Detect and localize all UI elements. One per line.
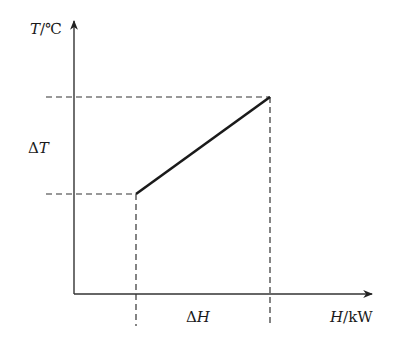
delta-h-label: ΔH bbox=[186, 308, 211, 326]
delta-t-label: ΔT bbox=[28, 139, 50, 157]
temperature-line bbox=[136, 97, 270, 194]
y-axis-label: T/℃ bbox=[30, 20, 62, 38]
temperature-enthalpy-diagram: T/℃ H/kW ΔT ΔH bbox=[0, 0, 407, 345]
x-axis-label: H/kW bbox=[329, 308, 373, 326]
